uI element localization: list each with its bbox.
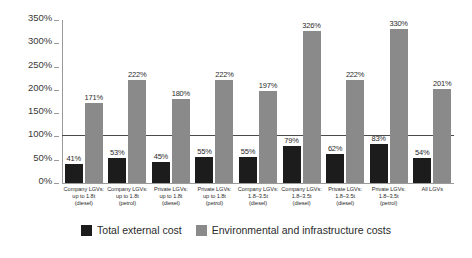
bar-total-external-cost: 62% [326,154,344,183]
y-axis-tick-mark [54,43,59,44]
x-axis-category-label-line: Private LGVs: [193,186,237,193]
x-axis-category-label-line: Private LGVs: [149,186,193,193]
y-axis-tick-label: 300% [28,36,52,46]
x-axis-category-label-line: Company LGVs: [62,186,106,193]
bar-group: 83%330% [367,20,411,183]
x-axis-category-label: Company LGVs:1.8–3.5t(diesel) [280,186,324,207]
bar-total-external-cost: 79% [283,146,301,183]
x-axis-category-label-line: (petrol) [193,200,237,207]
bar-value-label: 171% [85,93,103,102]
y-axis-tick-mark [54,183,59,184]
legend-label: Total external cost [97,224,182,236]
x-axis-category-label-line: 1.8–3.5t [280,193,324,200]
x-axis-category-label-line: (diesel) [236,200,280,207]
y-axis-tick-label: 250% [28,60,52,70]
bar-value-label: 326% [302,21,320,30]
x-axis-category-label: Company LGVs:up to 1.8t(diesel) [62,186,106,207]
bar-group: 54%201% [410,20,454,183]
bar-value-label: 45% [154,152,168,161]
bar-value-label: 53% [110,148,124,157]
bar-group: 62%222% [323,20,367,183]
legend-item: Total external cost [81,224,182,236]
bar-environmental-infrastructure-costs: 171% [85,103,103,183]
y-axis-tick-label: 100% [28,129,52,139]
x-axis-category-label-line: 1.8–3.5t [236,193,280,200]
y-axis-tick-label: 150% [28,106,52,116]
bar-value-label: 330% [389,19,407,28]
x-axis-category-label-line: (diesel) [149,200,193,207]
bar-total-external-cost: 83% [370,144,388,183]
bar-environmental-infrastructure-costs: 180% [172,99,190,183]
x-axis-category-label-line: Private LGVs: [367,186,411,193]
bar-value-label: 180% [172,89,190,98]
bar-group: 41%171% [62,20,106,183]
x-axis-category-label: Private LGVs:up to 1.8t(petrol) [193,186,237,207]
bar-value-label: 62% [328,144,342,153]
x-axis-category-label-line: (diesel) [323,200,367,207]
bar-total-external-cost: 45% [152,162,170,183]
legend-item: Environmental and infrastructure costs [196,224,391,236]
bar-value-label: 55% [197,147,211,156]
bar-value-label: 79% [284,136,298,145]
x-axis-category-label: All LGVs [410,186,454,193]
x-axis-category-label-line: All LGVs [410,186,454,193]
x-axis-category-label: Private LGVs:1.8–3.5t(petrol) [367,186,411,207]
bar-value-label: 83% [371,134,385,143]
x-axis-category-label-line: up to 1.8t [106,193,150,200]
bar-group: 45%180% [149,20,193,183]
bar-environmental-infrastructure-costs: 330% [390,29,408,183]
bar-environmental-infrastructure-costs: 222% [128,80,146,183]
chart-legend: Total external costEnvironmental and inf… [0,224,472,236]
bar-total-external-cost: 41% [65,164,83,183]
x-axis-category-label-line: (diesel) [280,200,324,207]
x-axis-category-label-line: (petrol) [106,200,150,207]
x-axis-category-label-line: up to 1.8t [62,193,106,200]
x-axis-category-label-line: Company LGVs: [236,186,280,193]
bar-group: 79%326% [280,20,324,183]
x-axis-category-label-line: Company LGVs: [280,186,324,193]
bar-total-external-cost: 55% [239,157,257,183]
bar-total-external-cost: 53% [108,158,126,183]
x-axis-category-label-line: Private LGVs: [323,186,367,193]
x-axis-category-label-line: up to 1.8t [149,193,193,200]
x-axis-line [62,183,454,184]
bar-value-label: 197% [259,81,277,90]
bar-value-label: 222% [215,70,233,79]
x-axis-category-label: Company LGVs:1.8–3.5t(diesel) [236,186,280,207]
bar-value-label: 55% [241,147,255,156]
legend-label: Environmental and infrastructure costs [212,224,391,236]
y-axis-tick-mark [54,113,59,114]
y-axis-tick-mark [54,160,59,161]
bar-total-external-cost: 54% [413,158,431,183]
x-axis-category-label-line: Company LGVs: [106,186,150,193]
bar-total-external-cost: 55% [195,157,213,183]
bar-environmental-infrastructure-costs: 197% [259,91,277,183]
y-axis-tick-label: 350% [28,13,52,23]
legend-swatch-icon [196,225,207,236]
bar-value-label: 54% [415,148,429,157]
bar-chart: 41%171%53%222%45%180%55%222%55%197%79%32… [0,0,472,258]
x-axis-category-label: Private LGVs:1.8–3.5t(diesel) [323,186,367,207]
x-axis-category-label-line: (petrol) [367,200,411,207]
bar-group: 55%222% [193,20,237,183]
x-axis-category-label-line: 1.8–3.5t [367,193,411,200]
bar-group: 55%197% [236,20,280,183]
x-axis-category-labels: Company LGVs:up to 1.8t(diesel)Company L… [62,186,454,214]
y-axis-tick-mark [54,136,59,137]
y-axis-tick-label: 0% [38,176,52,186]
y-axis-tick-mark [54,20,59,21]
x-axis-category-label-line: (diesel) [62,200,106,207]
legend-swatch-icon [81,225,92,236]
bar-environmental-infrastructure-costs: 222% [346,80,364,183]
x-axis-category-label: Private LGVs:up to 1.8t(diesel) [149,186,193,207]
y-axis-tick-mark [54,67,59,68]
y-axis-tick-mark [54,90,59,91]
bar-value-label: 201% [433,79,451,88]
bar-value-label: 222% [128,70,146,79]
x-axis-category-label-line: up to 1.8t [193,193,237,200]
x-axis-category-label-line: 1.8–3.5t [323,193,367,200]
bar-value-label: 222% [346,70,364,79]
y-axis-tick-label: 50% [33,153,52,163]
bar-value-label: 41% [67,154,81,163]
bar-environmental-infrastructure-costs: 326% [303,31,321,183]
